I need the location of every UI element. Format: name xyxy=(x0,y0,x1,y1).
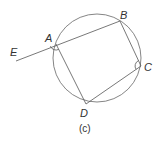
label-E: E xyxy=(10,46,18,58)
label-B: B xyxy=(120,9,127,21)
label-D: D xyxy=(80,107,88,119)
figure-caption: (c) xyxy=(79,123,91,134)
side-DA xyxy=(56,44,86,104)
side-BC xyxy=(120,21,141,66)
line-EB xyxy=(16,21,120,61)
label-C: C xyxy=(144,61,152,73)
cyclic-quadrilateral-diagram: E A B C D (c) xyxy=(0,0,163,141)
circumcircle xyxy=(53,14,141,102)
side-CD xyxy=(86,66,141,104)
label-A: A xyxy=(44,32,52,44)
